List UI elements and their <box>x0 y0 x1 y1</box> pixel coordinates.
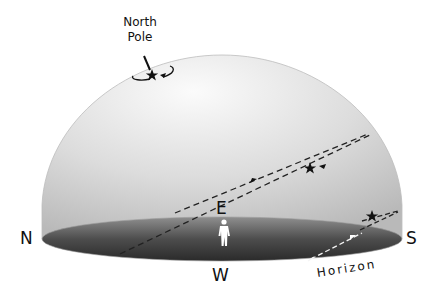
compass-south: S <box>406 228 417 248</box>
north-pole-label-line1: North <box>110 15 170 30</box>
compass-north: N <box>20 228 33 248</box>
pole-pointer-line <box>144 56 150 70</box>
north-pole-label-line2: Pole <box>110 30 170 45</box>
celestial-sphere-diagram <box>0 0 438 299</box>
compass-east: E <box>216 198 227 218</box>
compass-west: W <box>212 265 229 285</box>
north-pole-label: North Pole <box>110 15 170 45</box>
